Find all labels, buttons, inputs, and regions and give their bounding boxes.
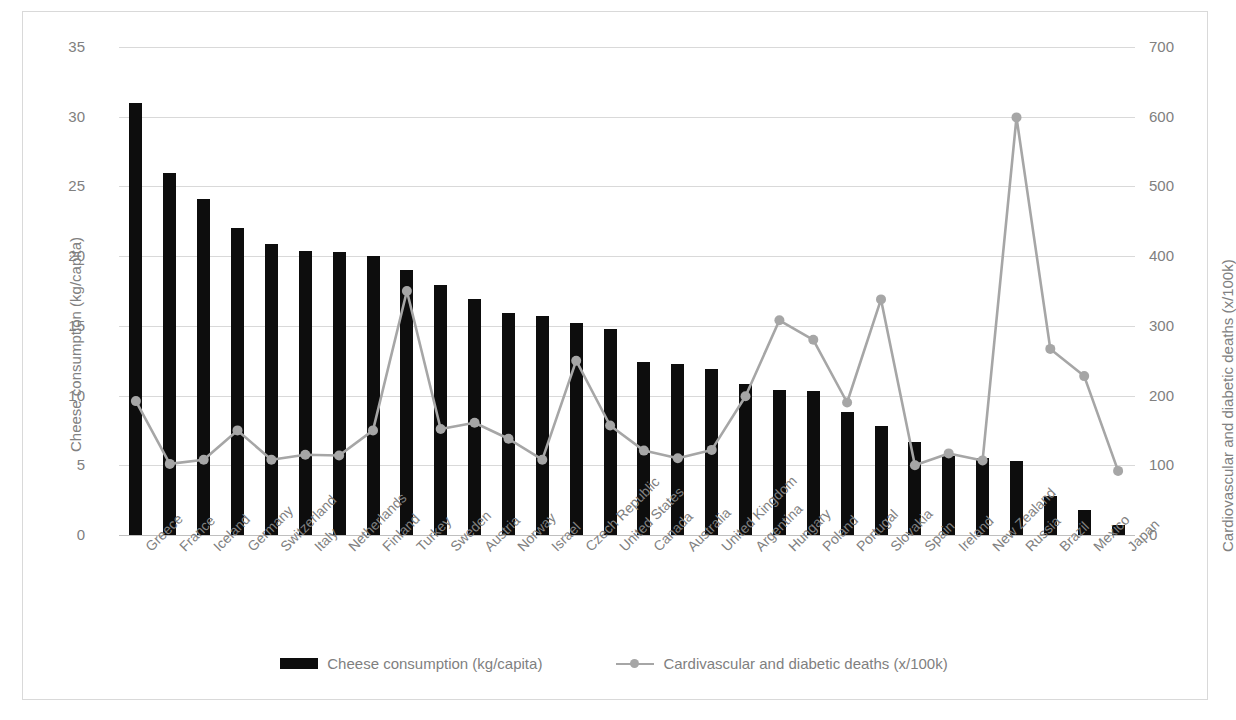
line-marker [605, 421, 615, 431]
line-marker [1045, 344, 1055, 354]
line-series [119, 47, 1135, 535]
y-axis-right-tick-label: 500 [1149, 178, 1174, 193]
y-axis-right-tick-label: 100 [1149, 457, 1174, 472]
line-marker [131, 396, 141, 406]
line-marker [300, 450, 310, 460]
legend-item-cheese[interactable]: Cheese consumption (kg/capita) [280, 655, 542, 672]
line-marker [774, 315, 784, 325]
bar-swatch-icon [280, 658, 318, 669]
line-marker [368, 425, 378, 435]
legend-label-deaths: Cardivascular and diabetic deaths (x/100… [663, 655, 947, 672]
line-marker [334, 451, 344, 461]
y-axis-left-tick-label: 0 [23, 527, 85, 542]
line-marker [1012, 112, 1022, 122]
y-axis-right-tick-label: 300 [1149, 318, 1174, 333]
line-marker [165, 459, 175, 469]
line-marker [808, 335, 818, 345]
line-marker [266, 455, 276, 465]
line-marker [842, 398, 852, 408]
line-marker-swatch-icon [616, 658, 654, 669]
line-marker [978, 455, 988, 465]
y-axis-left-title: Cheese consumption (kg/capita) [67, 237, 84, 452]
line-marker [741, 391, 751, 401]
y-axis-right-tick-label: 400 [1149, 248, 1174, 263]
line-marker [639, 446, 649, 456]
line-marker [470, 418, 480, 428]
y-axis-right-tick-label: 600 [1149, 109, 1174, 124]
plot-area [119, 47, 1135, 535]
line-marker [571, 356, 581, 366]
line-marker [199, 455, 209, 465]
y-axis-right-title: Cardiovascular and diabetic deaths (x/10… [1219, 259, 1236, 552]
line-marker [233, 425, 243, 435]
legend-item-deaths[interactable]: Cardivascular and diabetic deaths (x/100… [616, 655, 947, 672]
line-path [136, 117, 1118, 471]
line-marker [436, 424, 446, 434]
line-markers [131, 112, 1123, 476]
line-marker [537, 455, 547, 465]
line-marker [673, 453, 683, 463]
y-axis-right-tick-label: 700 [1149, 39, 1174, 54]
y-axis-left-tick-label: 35 [23, 39, 85, 54]
chart-legend: Cheese consumption (kg/capita) Cardivasc… [0, 655, 1228, 672]
line-marker [876, 294, 886, 304]
line-marker [707, 445, 717, 455]
legend-label-cheese: Cheese consumption (kg/capita) [327, 655, 542, 672]
line-marker [1079, 371, 1089, 381]
y-axis-left-tick-label: 30 [23, 109, 85, 124]
chart-frame: 05101520253035 0100200300400500600700 Gr… [22, 11, 1208, 700]
line-marker [1113, 466, 1123, 476]
line-marker [944, 448, 954, 458]
line-marker [504, 434, 514, 444]
line-marker [910, 460, 920, 470]
y-axis-left-tick-label: 5 [23, 457, 85, 472]
y-axis-right-tick-label: 200 [1149, 388, 1174, 403]
line-marker [402, 286, 412, 296]
y-axis-left-tick-label: 25 [23, 178, 85, 193]
